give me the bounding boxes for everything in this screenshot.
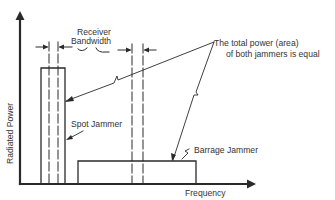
bandwidth-leader-right <box>96 48 109 52</box>
x-axis-label: Frequency <box>185 189 226 198</box>
note-leader-to-spot <box>66 42 214 101</box>
arrow-to-spot-icon <box>65 96 74 102</box>
barrage-jammer-label: Barrage Jammer <box>194 146 258 155</box>
arrow-left-icon <box>59 45 65 50</box>
y-axis-label: Radiated Power <box>6 103 15 164</box>
arrow-right-icon <box>43 45 49 50</box>
note-label-line1: The total power (area) <box>214 39 299 48</box>
bandwidth-leader-left <box>78 48 87 51</box>
receiver-label-line2: Bandwidth <box>71 37 111 46</box>
barrage-jammer-leader <box>182 149 189 159</box>
arrow-left-icon <box>144 48 150 53</box>
arrow-spot-label-icon <box>66 135 73 140</box>
note-label-line2: of both jammers is equal <box>226 50 320 59</box>
y-axis-arrow-icon <box>16 11 25 20</box>
barrage-jammer-bar <box>78 161 196 184</box>
arrow-right-icon <box>126 48 132 53</box>
note-leader-to-barrage <box>173 42 214 160</box>
x-axis-arrow-icon <box>247 180 256 189</box>
spot-jammer-label: Spot Jammer <box>71 120 122 129</box>
spot-jammer-bar <box>41 68 65 184</box>
diagram-canvas <box>0 0 335 200</box>
